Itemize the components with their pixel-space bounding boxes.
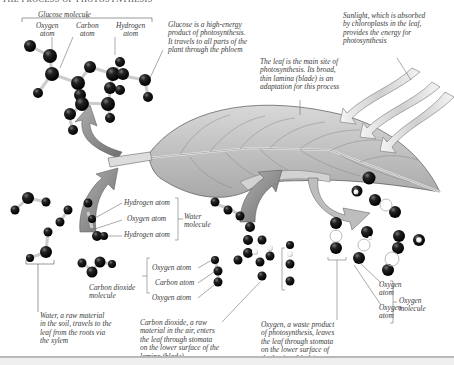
glucose-hydrogen-atom-label: Hydrogen atom [116,22,145,39]
co2-molecules [78,198,295,287]
water-molecule-label: Water molecule [184,213,211,230]
glucose-arrow [75,105,122,158]
glucose-carbon-atom-label: Carbon atom [76,22,99,39]
sunlight-description: Sunlight, which is absorbed by chloropla… [343,12,425,46]
water-oxygen-atom-label: Oxygen atom [127,215,166,223]
water-hydrogen-atom-label-1: Hydrogen atom [124,199,170,207]
co2-oxygen-atom-label-2: Oxygen atom [152,294,191,302]
photosynthesis-diagram: THE PROCESS OF PHOTOSYNTHESIS Glucose mo… [0,0,454,365]
glucose-molecule-label: Glucose molecule [38,11,91,19]
glucose-oxygen-atom-label: Oxygen atom [36,22,59,39]
bottom-band [0,358,454,365]
oxygen-molecule-label: Oxygen molecule [399,297,426,314]
water-description: Water, a raw material in the soil, trave… [40,312,111,346]
co2-description: Carbon dioxide, a raw material in the ai… [140,319,219,361]
water-hydrogen-atom-label-2: Hydrogen atom [124,231,170,239]
leaf-description: The leaf is the main site of photosynthe… [260,58,339,92]
glucose-description: Glucose is a high-energy product of phot… [168,21,247,55]
diagram-title: THE PROCESS OF PHOTOSYNTHESIS [2,0,153,4]
co2-molecule-label: Carbon dioxide molecule [89,284,135,301]
co2-carbon-atom-label: Carbon atom [155,279,194,287]
co2-oxygen-atom-label-1: Oxygen atom [152,264,191,272]
